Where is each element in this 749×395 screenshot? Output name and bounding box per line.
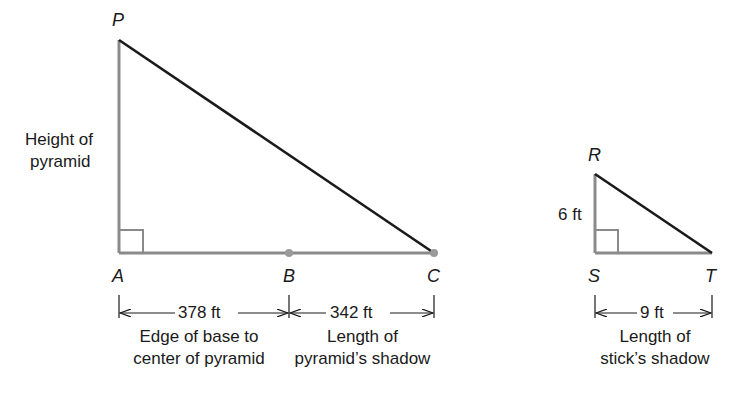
caption-bc-line2: pyramid’s shadow [280, 349, 445, 369]
height-label-line1: Height of [25, 130, 93, 150]
caption-st-line1: Length of [580, 327, 730, 347]
height-label-line2: pyramid [30, 152, 90, 172]
vertex-label-a: A [112, 266, 124, 286]
caption-ab-line2: center of pyramid [104, 349, 294, 369]
stick-height-label: 6 ft [558, 205, 582, 225]
vertex-label-p: P [112, 10, 124, 30]
large-dimensions [119, 295, 434, 318]
small-triangle [595, 174, 712, 253]
vertex-label-c: C [427, 266, 440, 286]
segment-ab-length: 378 ft [178, 303, 221, 323]
point-b [285, 249, 293, 257]
point-c [430, 249, 438, 257]
caption-st-line2: stick’s shadow [580, 349, 730, 369]
vertex-label-s: S [588, 266, 600, 286]
hypotenuse-pc [119, 40, 434, 253]
segment-bc-length: 342 ft [330, 303, 373, 323]
vertex-label-t: T [705, 266, 716, 286]
large-triangle [119, 40, 438, 257]
segment-st-length: 9 ft [640, 303, 664, 323]
caption-ab-line1: Edge of base to [104, 327, 294, 347]
vertex-label-b: B [283, 266, 295, 286]
vertex-label-r: R [588, 145, 601, 165]
caption-bc-line1: Length of [280, 327, 445, 347]
right-angle-marker-a [119, 230, 143, 253]
